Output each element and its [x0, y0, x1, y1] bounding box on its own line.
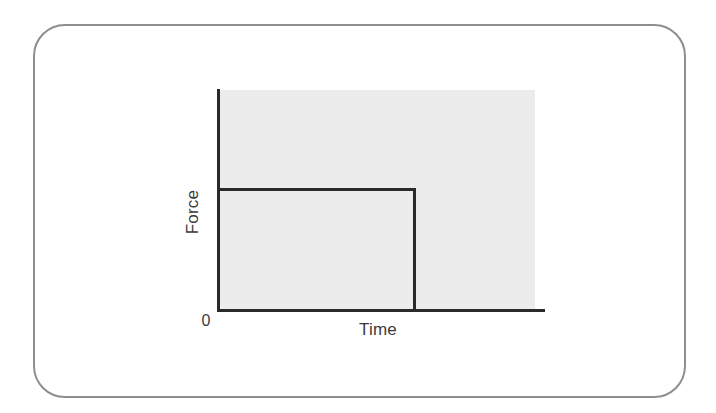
origin-tick-label: 0	[201, 313, 210, 329]
step-plateau-segment	[218, 188, 415, 191]
force-time-chart: Force Time 0	[0, 0, 716, 413]
step-drop-segment	[413, 188, 416, 311]
plot-area-background	[218, 90, 535, 311]
x-axis-label: Time	[359, 321, 397, 338]
y-axis-label: Force	[184, 190, 201, 234]
x-axis-line	[217, 309, 545, 312]
y-axis-line	[217, 89, 220, 312]
